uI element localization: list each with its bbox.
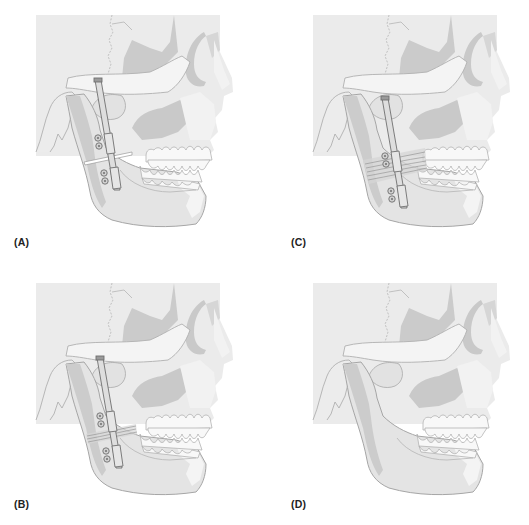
skull-illustration-c (264, 0, 528, 262)
panel-label-b: (B) (14, 498, 29, 510)
panel-a-osteotomy: (A) (0, 0, 264, 262)
skull-illustration-a (0, 0, 264, 262)
panel-c-wide-regenerate: (C) (264, 0, 528, 262)
skull-illustration-b (0, 262, 264, 524)
skull-illustration-d (264, 262, 528, 524)
panel-label-d: (D) (291, 498, 306, 510)
panel-b-narrow-regenerate: (B) (0, 262, 264, 524)
panel-d-device-removed: (D) (264, 262, 528, 524)
panel-label-c: (C) (291, 236, 306, 248)
panel-label-a: (A) (14, 236, 29, 248)
